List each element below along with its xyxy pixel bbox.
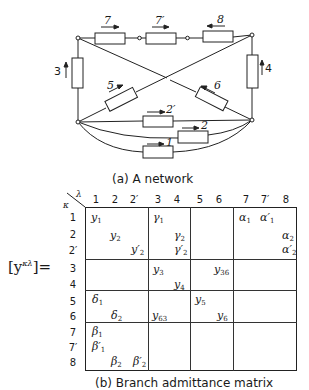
entry-beta2: β2	[111, 355, 122, 369]
entry-delta1: δ1	[92, 293, 103, 307]
col-header: 4	[170, 194, 184, 205]
entry-beta1: β1	[92, 325, 103, 339]
entry-y5: y5	[195, 293, 206, 307]
branch-label-4: 4	[265, 63, 272, 74]
row-header: 6	[66, 311, 80, 322]
row-header: 7′	[66, 342, 80, 353]
entry-y63: y63	[152, 309, 167, 323]
lhs-open: [y	[8, 258, 22, 276]
col-header: 6	[212, 194, 226, 205]
row-header: 2	[66, 229, 80, 240]
lhs-close: ]=	[33, 258, 51, 276]
entry-y4: y4	[174, 278, 185, 292]
resistor-4	[247, 55, 258, 88]
entry-y1: y1	[91, 211, 102, 225]
network-diagram	[0, 0, 309, 200]
col-header: 7	[239, 194, 253, 205]
entry-beta1p: β′1	[92, 340, 105, 354]
network-caption: (a) A network	[112, 172, 193, 186]
lhs-superscript: κλ	[22, 259, 32, 268]
branch-label-6: 6	[214, 80, 221, 91]
row-divider	[85, 290, 297, 291]
resistor-7	[95, 33, 125, 44]
col-header: 2	[108, 194, 122, 205]
col-header: 3	[151, 194, 165, 205]
resistor-3	[72, 58, 83, 88]
row-header: 2′	[66, 245, 80, 256]
entry-delta2: δ2	[111, 309, 122, 323]
col-header: 7′	[258, 194, 272, 205]
entry-alpha2p: α′2	[282, 243, 296, 257]
node-bottom-left	[76, 120, 80, 124]
node-mid-2	[186, 36, 190, 40]
entry-gamma2p: γ′2	[174, 243, 188, 257]
row-header: 3	[66, 263, 80, 274]
entry-y2: y2	[110, 229, 121, 243]
entry-y6: y6	[217, 309, 228, 323]
resistor-6	[195, 87, 228, 111]
entry-y36: y36	[214, 263, 229, 277]
matrix-caption: (b) Branch admittance matrix	[95, 376, 273, 390]
entry-beta2p: β′2	[133, 355, 146, 369]
node-top-right	[250, 33, 254, 37]
branch-label-8: 8	[217, 14, 224, 25]
row-header: 8	[66, 357, 80, 368]
corner-kappa: κ	[63, 201, 69, 210]
entry-y2p: y′2	[131, 243, 144, 257]
row-header: 5	[66, 296, 80, 307]
branch-label-3: 3	[54, 66, 61, 77]
branch-label-1: 1	[166, 137, 173, 148]
row-header: 1	[66, 212, 80, 223]
row-header: 4	[66, 279, 80, 290]
col-header: 5	[193, 194, 207, 205]
resistor-7p	[146, 33, 176, 44]
branch-label-2p: 2′	[166, 104, 176, 115]
node-top-left	[76, 36, 80, 40]
col-divider	[190, 207, 191, 371]
matrix-lhs: [yκλ]=	[8, 258, 51, 276]
entry-gamma1: γ1	[153, 211, 164, 225]
col-divider	[148, 207, 149, 371]
entry-alpha2: α2	[282, 229, 294, 243]
entry-alpha1: α1	[239, 211, 251, 225]
entry-alpha1p: α′1	[260, 211, 274, 225]
branch-label-2: 2	[201, 120, 208, 131]
row-divider	[85, 259, 297, 260]
col-header: 8	[279, 194, 293, 205]
node-mid-1	[138, 36, 142, 40]
resistor-2p	[143, 116, 173, 127]
row-header: 7	[66, 327, 80, 338]
entry-y3: y3	[153, 263, 164, 277]
branch-label-7: 7	[104, 15, 111, 26]
col-divider	[233, 207, 234, 371]
corner-lambda: λ	[76, 190, 82, 199]
branch-label-7p: 7′	[155, 15, 165, 26]
resistor-8	[203, 31, 233, 42]
node-bottom-right	[250, 118, 254, 122]
resistor-2	[178, 131, 208, 143]
branch-label-5: 5	[107, 80, 114, 91]
col-header: 2′	[127, 194, 141, 205]
entry-gamma2: γ2	[174, 229, 185, 243]
col-header: 1	[89, 194, 103, 205]
